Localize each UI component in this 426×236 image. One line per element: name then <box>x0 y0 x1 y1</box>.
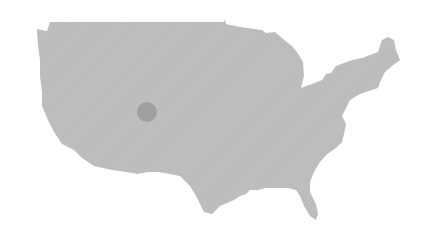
us-map <box>0 0 426 236</box>
us-landmass <box>37 19 400 220</box>
location-marker[interactable] <box>137 102 157 122</box>
